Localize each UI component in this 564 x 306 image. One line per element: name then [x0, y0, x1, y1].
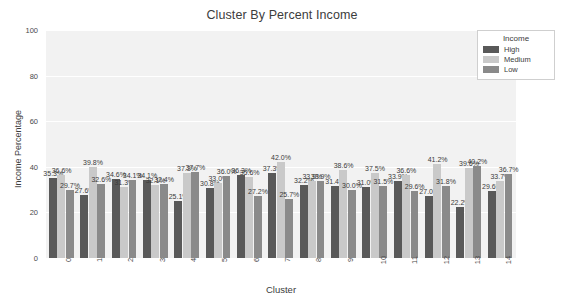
bar[interactable]: [129, 180, 137, 258]
bar[interactable]: [348, 190, 356, 258]
bar[interactable]: [66, 190, 74, 258]
x-axis-tick: 2: [126, 258, 135, 262]
y-axis-tick: 40: [30, 162, 38, 171]
x-axis-tick: 9: [346, 258, 355, 262]
plot-area: 35.3%36.6%29.7%27.6%39.8%32.6%34.6%31.3%…: [46, 30, 516, 258]
bar[interactable]: [442, 186, 450, 259]
y-axis-tick: 60: [30, 117, 38, 126]
bar-value-label: 32.4%: [154, 176, 174, 183]
chart-title: Cluster By Percent Income: [0, 8, 564, 22]
y-axis-tick: 0: [34, 254, 38, 263]
bar-groups: 35.3%36.6%29.7%27.6%39.8%32.6%34.6%31.3%…: [46, 30, 516, 258]
bar-group: 33.9%36.6%29.6%: [394, 30, 419, 258]
bar[interactable]: [120, 187, 128, 258]
legend-label: Medium: [504, 55, 531, 64]
bar[interactable]: [371, 173, 379, 259]
y-axis-tick: 80: [30, 71, 38, 80]
bar[interactable]: [237, 175, 245, 258]
bar-value-label: 41.2%: [428, 156, 448, 163]
bar[interactable]: [80, 195, 88, 258]
bar[interactable]: [496, 181, 504, 258]
bar-value-label: 36.6%: [52, 167, 72, 174]
bar[interactable]: [362, 187, 370, 258]
bar[interactable]: [160, 184, 168, 258]
legend-title: Income: [483, 34, 549, 43]
bar[interactable]: [183, 173, 191, 258]
bar[interactable]: [223, 176, 231, 258]
bar[interactable]: [308, 181, 316, 258]
chart-figure: Cluster By Percent Income 020406080100 I…: [0, 0, 564, 306]
bar[interactable]: [277, 162, 285, 258]
bar[interactable]: [473, 166, 481, 258]
bar-value-label: 42.0%: [271, 154, 291, 161]
bar-group: 25.1%37.3%37.7%: [174, 30, 199, 258]
bar[interactable]: [214, 183, 222, 258]
bar[interactable]: [191, 172, 199, 258]
bar[interactable]: [143, 180, 151, 258]
bar-value-label: 36.7%: [499, 166, 519, 173]
bar[interactable]: [268, 173, 276, 258]
bar-group: 32.2%33.9%33.9%: [300, 30, 325, 258]
bar-group: 27.0%41.2%31.8%: [425, 30, 450, 258]
bar[interactable]: [151, 185, 159, 258]
bar[interactable]: [465, 168, 473, 258]
x-axis-tick: 7: [283, 258, 292, 262]
bar[interactable]: [488, 191, 496, 258]
bar[interactable]: [331, 186, 339, 258]
bar[interactable]: [285, 199, 293, 258]
bar[interactable]: [97, 184, 105, 258]
bar-value-label: 37.5%: [365, 165, 385, 172]
y-axis-tick: 100: [25, 26, 38, 35]
bar[interactable]: [112, 179, 120, 258]
x-axis-tick: 6: [252, 258, 261, 262]
bar-value-label: 36.6%: [396, 167, 416, 174]
legend-entries: HighMediumLow: [483, 45, 549, 74]
legend-swatch-icon: [483, 56, 499, 63]
x-axis-tick: 10: [379, 256, 388, 264]
bar[interactable]: [394, 181, 402, 258]
bar-group: 30.8%33.0%36.0%: [206, 30, 231, 258]
bar[interactable]: [174, 201, 182, 258]
legend-entry[interactable]: High: [483, 45, 549, 54]
x-axis-tick: 3: [158, 258, 167, 262]
bar-value-label: 39.8%: [83, 159, 103, 166]
bar-group: 34.6%31.3%34.1%: [112, 30, 137, 258]
bar-group: 35.3%36.6%29.7%: [49, 30, 74, 258]
x-axis: 01234567891011121314: [46, 258, 516, 284]
bar[interactable]: [49, 178, 57, 258]
legend-entry[interactable]: Medium: [483, 55, 549, 64]
bar-value-label: 40.2%: [467, 158, 487, 165]
x-axis-tick: 14: [505, 256, 514, 264]
legend-label: High: [504, 45, 519, 54]
bar-group: 34.1%32.1%32.4%: [143, 30, 168, 258]
x-axis-tick: 0: [64, 258, 73, 262]
bar[interactable]: [300, 185, 308, 258]
bar-group: 31.4%38.6%30.0%: [331, 30, 356, 258]
x-axis-tick: 5: [220, 258, 229, 262]
bar-group: 31.0%37.5%31.5%: [362, 30, 387, 258]
x-axis-label: Cluster: [46, 284, 516, 295]
bar-group: 36.3%35.6%27.2%: [237, 30, 262, 258]
bar[interactable]: [505, 174, 513, 258]
y-axis-tick: 20: [30, 208, 38, 217]
bar[interactable]: [425, 196, 433, 258]
x-axis-tick: 1: [95, 258, 104, 262]
bar-value-label: 38.6%: [334, 162, 354, 169]
bar[interactable]: [317, 181, 325, 258]
bar-value-label: 37.7%: [185, 164, 205, 171]
legend-entry[interactable]: Low: [483, 65, 549, 74]
legend: Income HighMediumLow: [477, 30, 555, 80]
bar[interactable]: [254, 196, 262, 258]
x-axis-tick: 8: [314, 258, 323, 262]
bar[interactable]: [456, 207, 464, 258]
bar-value-label: 35.6%: [240, 169, 260, 176]
bar[interactable]: [379, 186, 387, 258]
bar-group: 37.3%42.0%25.7%: [268, 30, 293, 258]
y-axis-label: Income Percentage: [13, 79, 23, 219]
x-axis-tick: 4: [189, 258, 198, 262]
bar-value-label: 31.8%: [436, 178, 456, 185]
x-axis-tick: 11: [410, 256, 419, 264]
bar-value-label: 25.7%: [279, 191, 299, 198]
bar[interactable]: [206, 188, 214, 258]
bar[interactable]: [411, 191, 419, 258]
